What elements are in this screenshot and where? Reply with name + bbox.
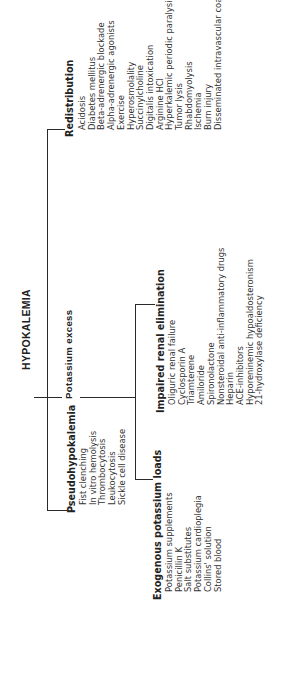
diagram-title: HYPOKALEMIA	[20, 289, 32, 370]
renal-list: Oliguric renal failure Cyclosporin A Tri…	[168, 248, 265, 405]
hypokalemia-tree-diagram: HYPOKALEMIA Pseudohypokalemia Fist clenc…	[0, 0, 298, 675]
branch-pseudohypokalemia-label: Pseudohypokalemia	[66, 405, 78, 513]
root-tick-line	[34, 397, 62, 398]
list-item: Sickle cell disease	[118, 429, 128, 505]
branch-exogenous-label: Exogenous potassium loads	[152, 450, 164, 600]
list-item: Disseminated intravascular coagulation	[214, 0, 224, 130]
exogenous-connector-line	[135, 479, 153, 480]
branch-renal-label: Impaired renal elimination	[155, 269, 167, 413]
potassium-excess-spine-line	[135, 304, 136, 480]
exogenous-list: Potassium supplements Penicillin K Salt …	[165, 492, 223, 592]
pseudo-connector-line	[47, 510, 67, 511]
main-spine-line	[47, 129, 48, 511]
redistribution-list: Acidosis Diabetes mellitus Beta-adrenerg…	[78, 0, 224, 130]
renal-connector-line	[135, 304, 155, 305]
potassium-excess-connector-line	[80, 397, 135, 398]
branch-redistribution-label: Redistribution	[64, 60, 76, 137]
list-item: Stored blood	[214, 492, 224, 592]
branch-potassium-excess-label: Potassium excess	[63, 309, 75, 399]
pseudohypokalemia-list: Fist clenching In vitro hemolysis Thromb…	[79, 429, 128, 505]
list-item: 21-hydroxylase deficiency	[255, 248, 265, 405]
redistribution-connector-line	[47, 129, 65, 130]
